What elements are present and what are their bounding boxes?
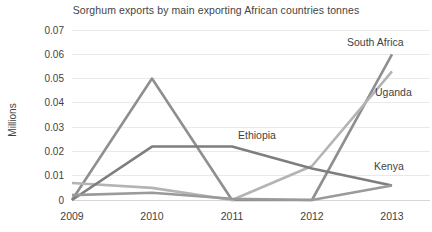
y-axis-title: Millions (7, 103, 18, 136)
series-label-ethiopia: Ethiopia (238, 129, 276, 141)
y-axis-tick-label: 0.01 (45, 170, 65, 181)
line-chart-plot: 00.010.020.030.040.050.060.07 2009201020… (0, 0, 432, 232)
x-axis-tick-label: 2012 (300, 210, 324, 222)
series-label-kenya: Kenya (374, 160, 404, 172)
x-axis-tick-label: 2011 (221, 210, 244, 222)
y-axis-tick-label: 0.04 (45, 97, 65, 108)
y-axis-tick-labels: 00.010.020.030.040.050.060.07 (45, 25, 65, 206)
y-axis-tick-label: 0.02 (45, 146, 65, 157)
y-axis-tick-label: 0.07 (45, 25, 65, 36)
y-axis-tick-label: 0.03 (45, 122, 65, 133)
data-line-uganda (72, 71, 392, 200)
x-axis-tick-label: 2013 (380, 210, 404, 222)
x-axis-tick-label: 2010 (140, 210, 164, 222)
y-axis-tick-label: 0 (58, 195, 64, 206)
series-label-south-africa: South Africa (347, 36, 404, 48)
y-axis-tick-label: 0.06 (45, 49, 65, 60)
data-line-kenya (72, 185, 392, 200)
data-line-ethiopia (72, 147, 392, 200)
gridlines-group (72, 30, 430, 200)
chart-container: Sorghum exports by main exporting Africa… (0, 0, 432, 232)
series-label-uganda: Uganda (375, 86, 412, 98)
y-axis-tick-label: 0.05 (45, 73, 65, 84)
x-axis-tick-label: 2009 (60, 210, 84, 222)
x-axis-tick-labels: 20092010201120122013 (60, 210, 404, 222)
